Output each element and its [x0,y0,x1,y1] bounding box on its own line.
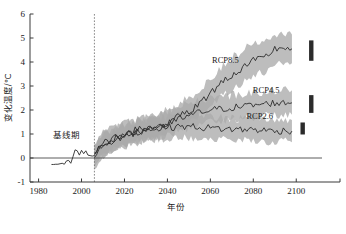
range-bars [300,40,313,134]
y-tick-label: 5 [21,33,26,43]
annotation-RCP2.6: RCP2.6 [246,111,273,121]
uncertainty-bands [94,31,292,169]
annotation-RCP8.5: RCP8.5 [212,55,239,65]
annotation-基线期: 基线期 [53,130,80,140]
y-tick-label: 3 [21,81,26,91]
y-tick-label: -1 [18,177,26,187]
y-tick-label: 6 [21,9,26,19]
x-tick-label: 2060 [201,186,220,196]
x-tick-label: 2020 [115,186,134,196]
range-bar-RCP8.5 [309,40,313,60]
annotation-RCP4.5: RCP4.5 [253,85,280,95]
y-tick-label: 0 [21,153,26,163]
range-bar-RCP2.6 [300,122,304,134]
x-tick-label: 2000 [73,186,92,196]
x-axis-title: 年份 [167,202,185,212]
y-tick-label: 2 [21,105,26,115]
temperature-projection-chart: -101234561980200020202040206020802100年份变… [0,0,346,234]
x-tick-label: 2040 [158,186,177,196]
range-bar-RCP4.5 [309,95,313,113]
y-tick-label: 4 [21,57,26,67]
y-axis-title: 变化温度/℃ [3,73,13,122]
x-tick-label: 2080 [244,186,263,196]
curve-历史 [51,150,94,165]
y-tick-label: 1 [21,129,26,139]
x-tick-label: 1980 [30,186,49,196]
x-tick-label: 2100 [287,186,306,196]
